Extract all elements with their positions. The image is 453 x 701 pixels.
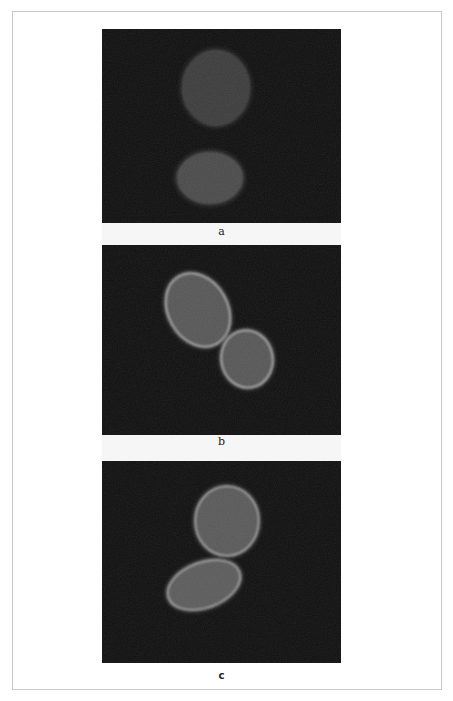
noise-overlay bbox=[102, 461, 341, 663]
micrograph-panel-a bbox=[102, 29, 341, 223]
micrograph-b-image bbox=[102, 245, 341, 435]
panel-label-a: a bbox=[102, 226, 341, 238]
micrograph-panel-c bbox=[102, 461, 341, 663]
panel-label-c: c bbox=[102, 670, 341, 682]
panel-label-b: b bbox=[102, 436, 341, 448]
micrograph-c-image bbox=[102, 461, 341, 663]
noise-overlay bbox=[102, 29, 341, 223]
noise-overlay bbox=[102, 245, 341, 435]
micrograph-panel-b bbox=[102, 245, 341, 435]
micrograph-a-image bbox=[102, 29, 341, 223]
